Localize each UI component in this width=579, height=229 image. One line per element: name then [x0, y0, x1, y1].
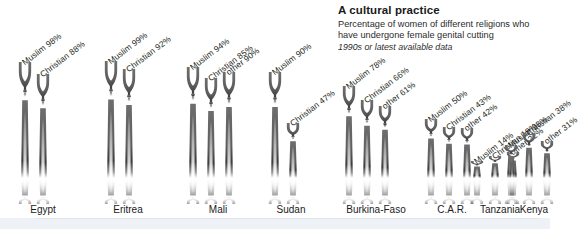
country-label-kenya: Kenya — [520, 204, 548, 215]
bottom-band — [0, 218, 550, 229]
figure-pictogram — [540, 141, 554, 178]
figure-reflection — [504, 178, 518, 204]
figure-pictogram — [522, 133, 536, 178]
bar-kenya-other[interactable] — [540, 141, 554, 178]
figure-reflection — [540, 178, 554, 204]
bottom-divider-rule — [36, 218, 540, 219]
bar-kenya-christian[interactable] — [522, 133, 536, 178]
figure-reflection — [522, 178, 536, 204]
